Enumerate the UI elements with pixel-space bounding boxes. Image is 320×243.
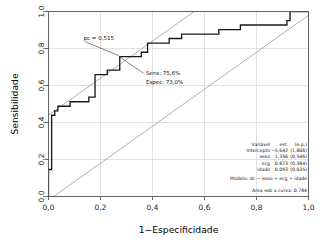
x-tick-label: 0,0	[43, 203, 55, 212]
y-tick-label: 0,6	[37, 79, 46, 91]
y-tick-label: 0,2	[37, 154, 46, 166]
stats-cell-se: (0,384)	[290, 161, 307, 166]
stats-cell-estimate: −5,642	[271, 148, 288, 153]
stats-cell-estimate: 0,873	[275, 161, 288, 166]
cutoff-label: pc = 0,515	[84, 35, 115, 42]
y-tick-label: 1,0	[37, 5, 46, 17]
y-tick-label: 0,0	[37, 190, 46, 202]
x-tick-label: 0,2	[95, 203, 107, 212]
stats-cell-se: (0,546)	[290, 154, 307, 159]
stats-header-estimate: est.	[280, 142, 288, 147]
x-tick-label: 0,4	[147, 203, 159, 212]
stats-header-variable: Variável	[252, 142, 270, 147]
stats-row: idade0,093(0,035)	[257, 167, 307, 172]
x-tick-label: 0,8	[251, 203, 263, 212]
x-tick-label: 1,0	[303, 203, 315, 212]
specificity-label: Espec: 73,0%	[146, 79, 183, 86]
y-tick-label: 0,8	[37, 42, 46, 54]
stats-cell-variable: sexo	[259, 154, 270, 159]
stats-cell-estimate: 0,093	[275, 167, 288, 172]
stats-cell-estimate: 1,356	[275, 154, 288, 159]
sensitivity-label: Sens: 75,6%	[146, 70, 180, 76]
y-tick-label: 0,4	[37, 116, 46, 128]
stats-header-se: (e.p.)	[295, 142, 307, 147]
stats-cell-se: (0,035)	[290, 167, 307, 172]
stats-row: sexo1,356(0,546)	[259, 154, 307, 159]
stats-cell-se: (1,806)	[290, 148, 307, 153]
x-tick-label: 0,6	[199, 203, 211, 212]
stats-cell-variable: ecg	[262, 161, 270, 166]
auc-value: Área sob a curva: 0,784	[252, 187, 307, 193]
stats-row: ecg0,873(0,384)	[262, 161, 307, 166]
stats-cell-variable: Intercepto	[246, 148, 270, 153]
roc-plot-svg: 0,00,20,40,60,81,00,00,20,40,60,81,01−Es…	[0, 0, 320, 243]
stats-cell-variable: idade	[257, 167, 270, 172]
stats-row: Intercepto−5,642(1,806)	[246, 148, 307, 153]
y-axis-title: Sensibilidade	[9, 73, 20, 134]
x-axis-title: 1−Especificidade	[139, 224, 219, 235]
roc-curve-figure: 0,00,20,40,60,81,00,00,20,40,60,81,01−Es…	[0, 0, 320, 243]
model-formula: Modelo: dc ~ sexo + ecg + idade	[230, 176, 307, 181]
